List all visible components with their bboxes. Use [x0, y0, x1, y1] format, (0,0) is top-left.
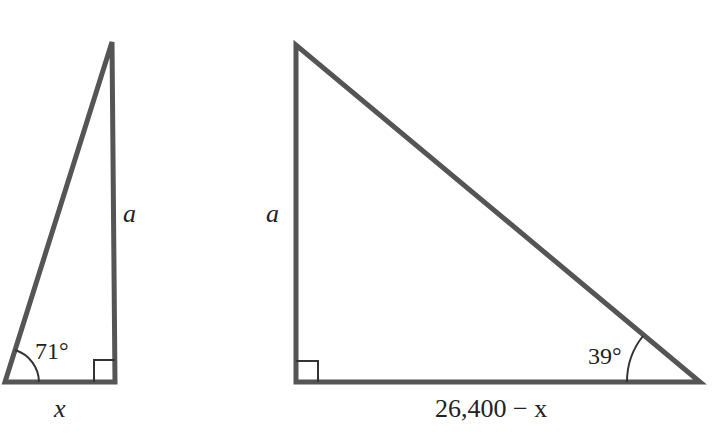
right-angle-arc — [627, 336, 643, 382]
left-right-angle-marker — [94, 360, 115, 382]
right-base-label: 26,400 − x — [435, 394, 547, 423]
left-base-x-label: x — [53, 394, 66, 423]
left-angle-label: 71° — [35, 338, 69, 364]
left-side-a-label: a — [123, 199, 136, 228]
left-triangle-shape — [5, 42, 115, 382]
right-triangle: 39° a 26,400 − x — [266, 45, 700, 423]
right-angle-label: 39° — [588, 343, 622, 369]
diagram-canvas: 71° a x 39° a 26,400 − x — [0, 0, 720, 439]
right-triangle-shape — [296, 45, 700, 382]
left-triangle: 71° a x — [5, 42, 136, 423]
right-side-a-label: a — [266, 199, 279, 228]
right-right-angle-marker — [296, 361, 318, 382]
